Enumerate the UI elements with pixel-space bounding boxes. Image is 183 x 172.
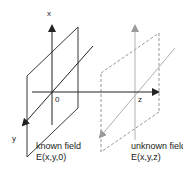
- y-axis: [23, 46, 93, 125]
- unknown-field-title: unknown field: [131, 141, 183, 151]
- z-position-label: z: [138, 95, 142, 105]
- y-axis-label: y: [12, 134, 16, 144]
- field-propagation-diagram: x y 0 z known field E(x,y,0) unknown fie…: [0, 0, 183, 172]
- known-field-expression: E(x,y,0): [36, 152, 66, 162]
- origin-label: 0: [55, 95, 59, 105]
- known-field-title: known field: [36, 141, 81, 151]
- unknown-field-expression: E(x,y,z): [131, 152, 161, 162]
- x-axis-label: x: [47, 9, 51, 19]
